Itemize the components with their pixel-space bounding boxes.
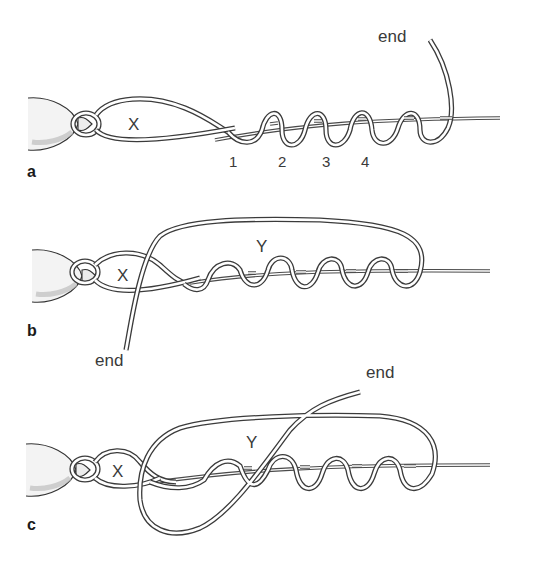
- loop-x-label: X: [117, 266, 128, 285]
- wraps: [228, 40, 452, 145]
- panel-label-a: a: [27, 163, 36, 180]
- end-label: end: [95, 351, 123, 370]
- loop-x-label: X: [112, 462, 123, 481]
- turn-label-1: 1: [229, 153, 237, 170]
- loop-y-label: Y: [246, 433, 257, 452]
- end-label: end: [366, 363, 394, 382]
- panel-a: X end 1 2 3 4 a: [27, 27, 500, 180]
- loop-x-label: X: [128, 115, 139, 134]
- sinker: [28, 98, 92, 150]
- turn-label-4: 4: [361, 153, 369, 170]
- loop-y-label: Y: [256, 237, 267, 256]
- panel-label-c: c: [27, 516, 36, 533]
- end-label: end: [378, 27, 406, 46]
- wraps-and-loop-y: [140, 392, 435, 533]
- loop-x: [95, 451, 176, 487]
- panel-b: X Y end b: [27, 219, 490, 370]
- turn-label-3: 3: [322, 153, 330, 170]
- knot-diagram: X end 1 2 3 4 a X Y end b: [0, 0, 551, 562]
- panel-label-b: b: [27, 322, 37, 339]
- panel-c: X Y end c: [26, 363, 490, 533]
- turn-label-2: 2: [278, 153, 286, 170]
- sinker: [26, 444, 90, 496]
- loop-x: [96, 99, 235, 140]
- sinker: [32, 250, 96, 302]
